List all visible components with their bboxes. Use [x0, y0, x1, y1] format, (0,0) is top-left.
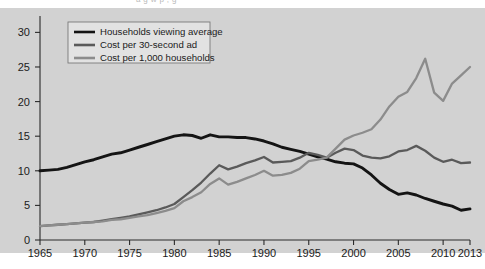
- x-tick-label: 2010: [431, 247, 455, 259]
- x-tick-label: 1990: [252, 247, 276, 259]
- x-tick-label: 2005: [386, 247, 410, 259]
- series-line: [40, 59, 470, 226]
- x-axis-tick-labels: 1965197019751980198519901995200020052010…: [28, 247, 482, 259]
- y-tick-label: 10: [18, 165, 30, 177]
- x-tick-label: 1985: [207, 247, 231, 259]
- y-tick-label: 30: [18, 26, 30, 38]
- y-tick-label: 15: [18, 130, 30, 142]
- x-tick-label: 1975: [117, 247, 141, 259]
- series-line: [40, 146, 470, 226]
- line-chart: 051015202530 196519701975198019851990199…: [0, 0, 485, 269]
- x-tick-label: 1965: [28, 247, 52, 259]
- chart-legend: Households viewing averageCost per 30-se…: [68, 22, 223, 63]
- series-line: [40, 135, 470, 210]
- y-tick-label: 5: [24, 199, 30, 211]
- chart-figure: a g w p , g 051015202530 196519701975198…: [0, 0, 485, 269]
- x-tick-label: 1970: [73, 247, 97, 259]
- y-axis-tick-labels: 051015202530: [18, 26, 30, 246]
- legend-label: Households viewing average: [100, 26, 223, 37]
- x-tick-label: 1995: [297, 247, 321, 259]
- x-tick-label: 2013: [458, 247, 482, 259]
- y-tick-label: 0: [24, 234, 30, 246]
- legend-label: Cost per 30-second ad: [100, 39, 197, 50]
- chart-series: [40, 59, 470, 226]
- x-tick-label: 2000: [341, 247, 365, 259]
- x-tick-label: 1980: [162, 247, 186, 259]
- legend-label: Cost per 1,000 households: [100, 52, 215, 63]
- y-tick-label: 20: [18, 96, 30, 108]
- y-tick-label: 25: [18, 61, 30, 73]
